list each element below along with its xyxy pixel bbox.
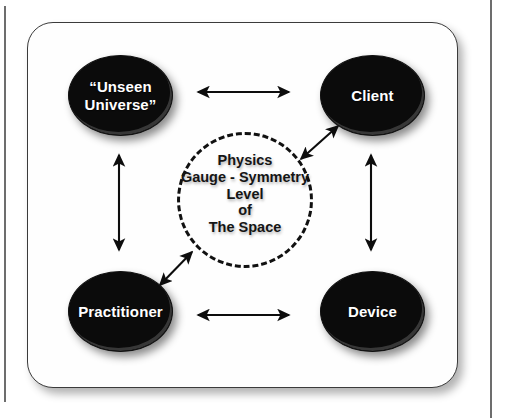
center-label-line-2: Gauge - Symmetry: [163, 169, 327, 186]
page-canvas: Physics Gauge - Symmetry Level of The Sp…: [0, 0, 506, 418]
page-margin-rule-left: [4, 6, 6, 402]
node-practitioner: Practitioner: [68, 271, 173, 352]
page-margin-rule-right: [490, 0, 492, 418]
node-device: Device: [320, 271, 425, 352]
center-label-line-1: Physics: [163, 152, 327, 169]
node-practitioner-label: Practitioner: [72, 303, 169, 321]
center-label-line-4: of: [163, 202, 327, 219]
center-label-line-3: Level: [163, 186, 327, 203]
center-label-line-5: The Space: [163, 219, 327, 236]
node-unseen-universe: “UnseenUniverse”: [68, 55, 173, 136]
center-label-group: Physics Gauge - Symmetry Level of The Sp…: [163, 152, 327, 236]
node-client: Client: [320, 55, 425, 136]
node-unseen-universe-label: “UnseenUniverse”: [79, 78, 163, 113]
node-device-label: Device: [342, 303, 403, 321]
node-client-label: Client: [345, 87, 399, 105]
